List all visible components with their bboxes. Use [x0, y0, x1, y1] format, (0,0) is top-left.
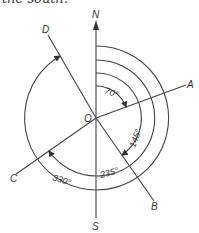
line-oc	[19, 118, 96, 172]
line-ob	[96, 118, 154, 201]
angle-70: 70°	[103, 85, 120, 99]
label-origin: O	[84, 113, 92, 124]
label-south: S	[92, 221, 99, 232]
line-od	[48, 35, 96, 118]
angle-145: 145°	[127, 127, 143, 148]
angle-330: 330°	[51, 172, 72, 187]
label-c: C	[10, 173, 18, 184]
label-a: A	[186, 79, 194, 90]
north-arrow-icon	[93, 20, 99, 30]
label-d: D	[42, 24, 49, 35]
label-north: N	[92, 9, 100, 20]
angle-235: 235°	[98, 165, 120, 180]
bearing-diagram: N S O A B C D 70° 145° 235° 330°	[0, 0, 199, 233]
label-b: B	[151, 201, 158, 212]
arc-235	[49, 60, 155, 176]
